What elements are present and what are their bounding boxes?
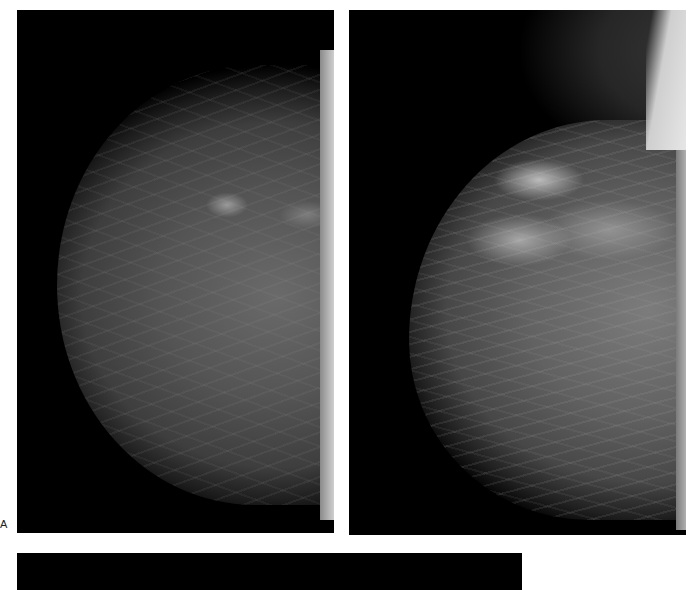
- panel-label: A: [0, 518, 7, 530]
- right-chest-wall-lower: [676, 150, 686, 530]
- left-mammogram-image: [17, 10, 334, 533]
- right-mammogram-image: [349, 10, 686, 535]
- left-chest-wall: [320, 50, 334, 520]
- bottom-image-panel: [17, 553, 522, 590]
- left-breast-tissue: [57, 65, 334, 505]
- right-chest-wall: [646, 10, 686, 150]
- right-breast-tissue: [409, 120, 686, 520]
